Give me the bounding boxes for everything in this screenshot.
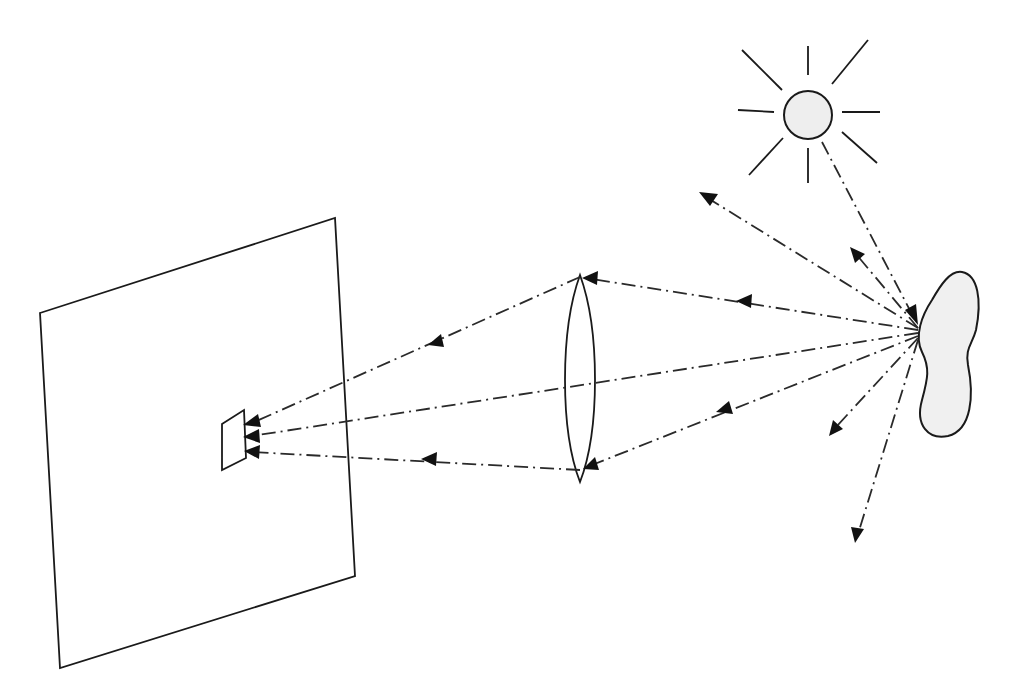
image-plane-screen xyxy=(40,218,355,668)
ray-to-lens-bottom xyxy=(592,336,918,465)
projected-image xyxy=(222,410,246,470)
refracted-ray-bottom xyxy=(252,452,580,470)
scattered-ray-up-left xyxy=(706,197,918,328)
arrowhead-icon xyxy=(699,192,718,206)
arrowhead-icon xyxy=(850,247,865,263)
sun-disc xyxy=(784,91,832,139)
arrowhead-icon xyxy=(716,401,733,414)
scattered-ray-down xyxy=(858,340,918,534)
ray-to-lens-top xyxy=(592,279,918,330)
arrowhead-icon xyxy=(421,452,437,466)
arrowhead-icon xyxy=(851,527,864,543)
light-rays xyxy=(252,142,918,534)
illuminated-object xyxy=(919,272,979,437)
incident-ray xyxy=(822,142,914,318)
convex-lens xyxy=(565,275,595,482)
optics-diagram xyxy=(0,0,1011,700)
arrowhead-icon xyxy=(582,271,598,285)
diagram-canvas xyxy=(0,0,1011,700)
sun-icon xyxy=(738,40,880,183)
scattered-ray-down-left xyxy=(836,338,918,427)
arrowhead-icon xyxy=(736,294,752,308)
arrowhead-icon xyxy=(428,334,444,347)
ray-through-lens-center xyxy=(252,333,918,436)
refracted-ray-top xyxy=(252,277,580,423)
arrowhead-icon xyxy=(243,414,261,427)
